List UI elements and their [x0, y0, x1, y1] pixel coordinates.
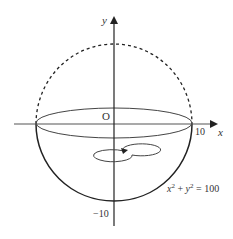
y-tick-neg10: −10 — [93, 208, 109, 219]
diagram-canvas: y x O 10 −10 x2 + y2 = 100 — [0, 0, 233, 239]
origin-label: O — [102, 110, 110, 122]
rotation-arrowhead-icon — [121, 148, 128, 154]
rotation-arrow-icon — [93, 144, 160, 162]
x-tick-10: 10 — [195, 126, 205, 137]
equation-label: x2 + y2 = 100 — [166, 182, 219, 194]
x-axis-label: x — [217, 126, 223, 138]
y-axis-label: y — [101, 14, 107, 26]
